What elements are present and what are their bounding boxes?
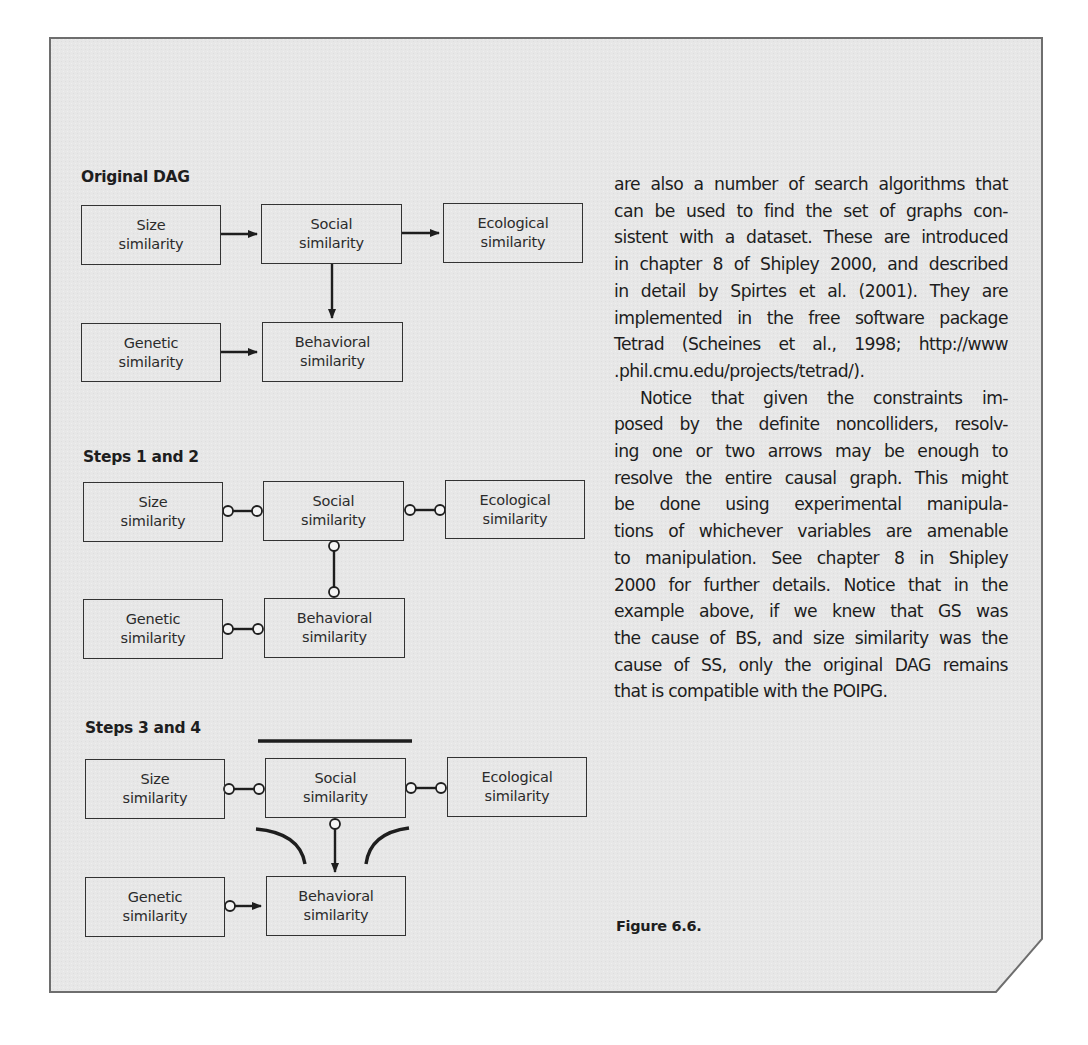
edge-mark-circle — [406, 783, 416, 793]
node-behavioral-similarity: Behavioral similarity — [262, 322, 403, 382]
edge-mark-circle — [225, 901, 235, 911]
body-text: are also a number of search algorithms t… — [614, 171, 1008, 705]
edge-mark-circle — [405, 505, 415, 515]
edge-mark-circle — [254, 784, 264, 794]
node-social-similarity: Social similarity — [261, 204, 402, 264]
collider-arc-right — [366, 828, 409, 864]
edge-mark-circle — [330, 819, 340, 829]
edge-mark-circle — [435, 505, 445, 515]
edge-mark-circle — [436, 783, 446, 793]
node-ecological-similarity: Ecological similarity — [443, 203, 583, 263]
node-social-similarity: Social similarity — [263, 481, 404, 541]
panel-title-steps-1-2: Steps 1 and 2 — [83, 448, 199, 466]
node-behavioral-similarity: Behavioral similarity — [264, 598, 405, 658]
node-ecological-similarity: Ecological similarity — [445, 480, 585, 539]
node-behavioral-similarity: Behavioral similarity — [266, 876, 406, 936]
node-size-similarity: Size similarity — [83, 482, 223, 542]
edge-mark-circle — [329, 587, 339, 597]
edge-mark-circle — [223, 506, 233, 516]
node-size-similarity: Size similarity — [85, 759, 225, 819]
collider-arc-left — [256, 829, 305, 864]
edge-mark-circle — [223, 624, 233, 634]
edge-mark-circle — [329, 541, 339, 551]
node-genetic-similarity: Genetic similarity — [85, 877, 225, 937]
edge-mark-circle — [224, 784, 234, 794]
figure-caption: Figure 6.6. — [616, 918, 702, 934]
paragraph-1: are also a number of search algorithms t… — [614, 171, 1008, 385]
paragraph-2: Notice that given the constraints im- po… — [614, 385, 1008, 705]
edge-mark-circle — [252, 506, 262, 516]
edge-mark-circle — [253, 624, 263, 634]
node-size-similarity: Size similarity — [81, 205, 221, 265]
node-genetic-similarity: Genetic similarity — [81, 323, 221, 382]
node-social-similarity: Social similarity — [265, 758, 406, 818]
node-ecological-similarity: Ecological similarity — [447, 757, 587, 817]
panel-title-original-dag: Original DAG — [81, 168, 190, 186]
panel-title-steps-3-4: Steps 3 and 4 — [85, 719, 201, 737]
node-genetic-similarity: Genetic similarity — [83, 599, 223, 659]
